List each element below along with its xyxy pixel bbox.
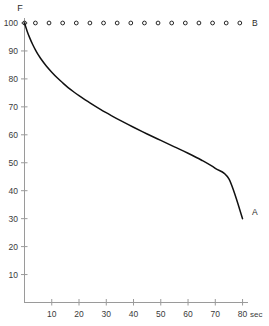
series-b-point bbox=[224, 21, 228, 25]
x-tick-label: 60 bbox=[183, 309, 193, 319]
series-b-point bbox=[34, 21, 38, 25]
y-tick-label: 80 bbox=[9, 74, 19, 84]
series-b-point bbox=[74, 21, 78, 25]
series-b-point bbox=[61, 21, 65, 25]
series-b-point bbox=[183, 21, 187, 25]
y-axis-ticks: 102030405060708090100 bbox=[4, 18, 28, 280]
x-axis-unit-label: sec bbox=[250, 310, 262, 319]
x-tick-label: 20 bbox=[74, 309, 84, 319]
chart-container: 102030405060708090100 1020304050607080 F… bbox=[0, 0, 269, 326]
series-b-point bbox=[129, 21, 133, 25]
y-tick-label: 10 bbox=[9, 270, 19, 280]
y-tick-label: 100 bbox=[4, 18, 18, 28]
x-tick-label: 40 bbox=[129, 309, 139, 319]
y-axis-title: F bbox=[17, 3, 23, 13]
series-b-label: B bbox=[252, 18, 258, 28]
series-b-point bbox=[115, 21, 119, 25]
series-b-point bbox=[88, 21, 92, 25]
x-tick-label: 50 bbox=[156, 309, 166, 319]
y-tick-label: 20 bbox=[9, 242, 19, 252]
x-tick-label: 10 bbox=[47, 309, 57, 319]
y-tick-label: 50 bbox=[9, 158, 19, 168]
series-b-point bbox=[156, 21, 160, 25]
series-b-point bbox=[143, 21, 147, 25]
y-tick-label: 60 bbox=[9, 130, 19, 140]
series-b-point bbox=[47, 21, 51, 25]
series-b-point bbox=[197, 21, 201, 25]
series-b-point bbox=[238, 21, 242, 25]
series-b-point bbox=[211, 21, 215, 25]
y-tick-label: 40 bbox=[9, 186, 19, 196]
line-chart: 102030405060708090100 1020304050607080 F… bbox=[0, 0, 269, 326]
y-tick-label: 90 bbox=[9, 46, 19, 56]
x-tick-label: 30 bbox=[102, 309, 112, 319]
x-tick-label: 80 bbox=[238, 309, 248, 319]
x-tick-label: 70 bbox=[211, 309, 221, 319]
series-b-point bbox=[102, 21, 106, 25]
series-a-curve bbox=[25, 23, 243, 219]
series-a-label: A bbox=[252, 207, 258, 217]
series-b-point bbox=[170, 21, 174, 25]
y-tick-label: 30 bbox=[9, 214, 19, 224]
series-b-markers bbox=[23, 21, 242, 25]
y-tick-label: 70 bbox=[9, 102, 19, 112]
